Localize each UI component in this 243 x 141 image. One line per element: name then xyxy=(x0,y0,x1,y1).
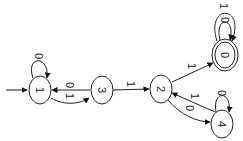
state-diagram: 1 0 3 0 1 2 1 0 1 0 1 4 0 1 0 xyxy=(0,0,243,141)
transition-0-0-a-label: 0 xyxy=(219,17,231,23)
transition-2-4-label: 0 xyxy=(184,105,196,111)
transition-1-1 xyxy=(31,61,47,78)
state-0-label: 0 xyxy=(219,52,231,58)
transition-1-1-label: 0 xyxy=(33,53,45,59)
transition-3-2-label: 1 xyxy=(125,81,137,87)
transition-4-2-label: 1 xyxy=(189,93,201,99)
state-3-label: 3 xyxy=(96,87,108,93)
transition-3-2 xyxy=(113,89,149,90)
state-0: 0 xyxy=(212,39,238,71)
transition-3-1-label: 0 xyxy=(64,82,76,88)
state-2-label: 2 xyxy=(155,86,167,92)
transition-4-4-label: 0 xyxy=(216,90,228,96)
state-1-label: 1 xyxy=(34,87,46,93)
transition-1-3-label: 1 xyxy=(64,93,76,99)
state-2: 2 xyxy=(150,75,172,103)
transition-0-0-b-label: 1 xyxy=(218,3,230,9)
transition-0-0-a xyxy=(219,22,231,40)
state-3: 3 xyxy=(91,76,113,104)
state-4: 4 xyxy=(211,110,233,138)
state-1: 1 xyxy=(29,76,51,104)
transition-2-0-label: 1 xyxy=(186,63,198,69)
state-4-label: 4 xyxy=(216,121,228,127)
